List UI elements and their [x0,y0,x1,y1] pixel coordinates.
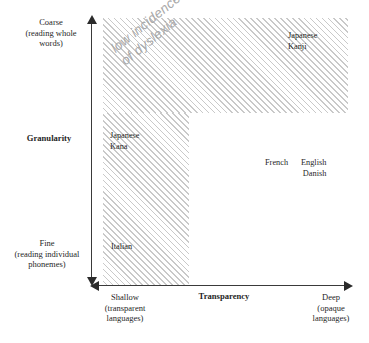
x-axis-right-label: Deep (opaque languages) [296,292,366,324]
x-axis-line [97,285,349,286]
x-axis-title: Transparency [178,291,270,302]
y-axis-title: Granularity [10,133,88,144]
data-point-italian: Italian [111,242,132,253]
data-point-japanese-kanji: Japanese Kanji [288,31,318,52]
x-axis-right-arrow-icon [344,281,353,291]
y-axis-bottom-label: Fine (reading individual phonemes) [6,238,88,270]
data-point-french: French [265,158,288,169]
data-point-japanese-kana: Japanese Kana [110,131,140,152]
y-axis-up-arrow-icon [87,15,97,24]
data-point-english-danish: English Danish [301,158,326,179]
y-axis-line [91,22,92,280]
y-axis-top-label: Coarse (reading whole words) [14,17,88,49]
diagram-canvas: low incidence of dyslexia Coarse (readin… [0,0,369,343]
x-axis-left-label: Shallow (transparent languages) [86,292,164,324]
x-axis-left-arrow-icon [90,281,99,291]
